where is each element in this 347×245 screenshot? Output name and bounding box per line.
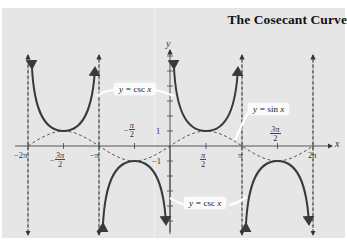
x-axis-label: x (335, 138, 339, 149)
x-tick-label-pi: π (238, 151, 242, 159)
y-tick-label-1: 1 (156, 127, 160, 135)
callout-csc-upper: y = csc x (114, 83, 156, 95)
x-tick-label-neg3pi2: − 3π2 (50, 151, 65, 168)
x-tick-label-negpi2: − π2 (124, 121, 135, 138)
callout-csc-lower: y = csc x (184, 197, 226, 209)
callout-sin: y = sin x (248, 103, 289, 115)
asymptotes (28, 55, 313, 235)
callout-leaders (97, 90, 250, 205)
x-tick-label-2pi: 2π (308, 151, 317, 159)
y-axis-label: y (166, 38, 170, 49)
x-tick-label-negpi: −π (90, 151, 99, 159)
x-tick-label-neg2pi: −2π (14, 151, 27, 159)
x-tick-label-pi2: π2 (200, 151, 206, 168)
graph-canvas (0, 0, 347, 245)
x-tick-label-3pi2: 3π2 (270, 125, 281, 142)
y-tick-label-neg1: −1 (152, 157, 161, 165)
